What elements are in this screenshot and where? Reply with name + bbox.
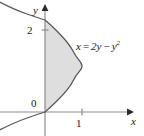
- y-tick-label-2: 2: [27, 25, 33, 36]
- x-axis-label: x: [131, 116, 136, 127]
- equation-term-2-exponent: 2: [117, 39, 121, 47]
- origin-label: 0: [31, 98, 37, 109]
- equation-term-1: 2y: [91, 40, 101, 52]
- y-axis-arrowhead: [42, 4, 49, 11]
- equation-equals: =: [83, 40, 89, 52]
- equation-minus: −: [104, 40, 110, 52]
- x-tick-label-1: 1: [76, 118, 82, 129]
- equation-lhs: x: [76, 40, 81, 52]
- math-figure: y x 2 0 1 x=2y−y2: [0, 0, 144, 136]
- shaded-region: [45, 20, 82, 112]
- y-axis-label: y: [33, 5, 38, 16]
- curve-equation-label: x=2y−y2: [76, 41, 120, 52]
- figure-canvas: [0, 0, 144, 136]
